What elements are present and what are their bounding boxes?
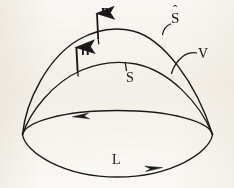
s-hat-accent: ˆ bbox=[173, 3, 177, 16]
boundary-loop-back-edge bbox=[23, 111, 213, 135]
outer-surface-curve bbox=[23, 29, 213, 135]
loop-arrowhead-back bbox=[73, 113, 90, 119]
inner-normal-foot-tick bbox=[78, 71, 79, 76]
outer-surface-label: ˆ S bbox=[171, 11, 179, 26]
loop-arrowhead-front bbox=[145, 166, 163, 171]
figure-root: ˆ n n ˆ S S V L bbox=[0, 0, 234, 188]
inner-surface-label: S bbox=[126, 71, 134, 85]
inner-normal-label: n bbox=[81, 43, 90, 57]
outer-normal-foot-tick bbox=[98, 39, 99, 44]
s-hat-leader-line bbox=[163, 24, 171, 35]
volume-label: V bbox=[198, 47, 208, 61]
inner-surface-curve bbox=[23, 62, 213, 134]
inner-normal-vector-arrow bbox=[76, 48, 77, 72]
boundary-loop-label: L bbox=[112, 153, 121, 167]
n-hat-accent: ˆ bbox=[103, 0, 107, 8]
outer-normal-label: ˆ n bbox=[101, 3, 109, 18]
outer-normal-vector-arrow bbox=[97, 14, 98, 40]
